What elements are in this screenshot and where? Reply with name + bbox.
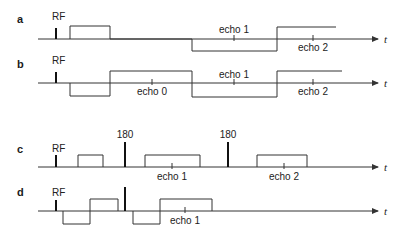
time-axis-label: t [384,33,388,45]
pulse-sequence-diagram: atRFecho 1echo 2btRFecho 0echo 1echo 2ct… [0,0,400,235]
rf-label: RF [52,143,65,154]
rf-label: RF [52,11,65,22]
echo-label: echo 0 [137,86,167,97]
echo-label: echo 1 [219,69,249,80]
panel-label: a [17,13,24,25]
panel-c: ctRF180180echo 1echo 2 [17,129,388,182]
panel-label: b [17,58,24,70]
panels-group: atRFecho 1echo 2btRFecho 0echo 1echo 2ct… [17,11,388,226]
pulse-180-label: 180 [117,129,134,140]
rf-label: RF [52,55,65,66]
echo-label: echo 2 [298,86,328,97]
panel-b: btRFecho 0echo 1echo 2 [17,55,388,97]
time-axis-label: t [384,205,388,217]
gradient-waveform [78,155,103,167]
echo-label: echo 1 [170,215,200,226]
rf-label: RF [52,187,65,198]
echo-label: echo 2 [298,42,328,53]
panel-label: d [17,186,24,198]
panel-d: dtRFecho 1 [17,186,388,226]
echo-label: echo 2 [269,171,299,182]
gradient-waveform [257,155,307,167]
time-axis-label: t [384,77,388,89]
panel-label: c [17,143,23,155]
echo-label: echo 1 [219,24,249,35]
pulse-180-label: 180 [220,129,237,140]
echo-label: echo 1 [157,171,187,182]
time-axis-label: t [384,161,388,173]
panel-a: atRFecho 1echo 2 [17,11,388,53]
